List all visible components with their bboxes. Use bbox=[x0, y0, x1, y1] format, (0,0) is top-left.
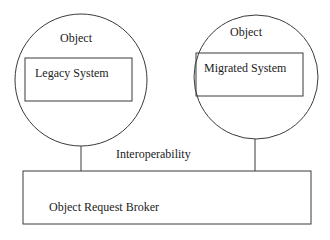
orb-box bbox=[23, 171, 311, 224]
legacy-system-label: Legacy System bbox=[35, 66, 109, 80]
object-left-label: Object bbox=[60, 31, 93, 45]
orb-label: Object Request Broker bbox=[49, 200, 159, 214]
object-right-label: Object bbox=[230, 25, 263, 39]
migrated-system-label: Migrated System bbox=[204, 61, 287, 75]
interoperability-diagram: Object Legacy System Object Migrated Sys… bbox=[0, 0, 330, 240]
interoperability-label: Interoperability bbox=[116, 147, 191, 161]
